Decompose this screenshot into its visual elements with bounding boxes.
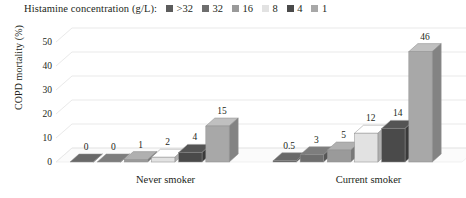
x-axis-category-label: Never smoker bbox=[96, 174, 236, 185]
y-axis-tick-label: 30 bbox=[28, 86, 52, 96]
legend-swatch-icon bbox=[287, 5, 294, 12]
legend-item-label: >32 bbox=[177, 3, 193, 14]
legend-item-label: 16 bbox=[242, 3, 253, 14]
gridline bbox=[56, 76, 466, 90]
legend-swatch-icon bbox=[262, 5, 269, 12]
legend-item[interactable]: >32 bbox=[166, 3, 193, 14]
legend-item[interactable]: 4 bbox=[287, 3, 303, 14]
copd-histamine-bar-chart: Histamine concentration (g/L): >32 32 16… bbox=[0, 0, 466, 198]
y-axis-tick-labels: 01020304050 bbox=[28, 30, 52, 170]
legend-title: Histamine concentration (g/L): bbox=[24, 3, 157, 14]
legend-item-label: 1 bbox=[322, 3, 327, 14]
bar-value-label: 15 bbox=[202, 107, 242, 117]
bar-value-label: 5 bbox=[324, 131, 364, 141]
y-axis-tick-label: 10 bbox=[28, 134, 52, 144]
legend-item[interactable]: 32 bbox=[202, 3, 223, 14]
legend-item[interactable]: 1 bbox=[311, 3, 327, 14]
bar[interactable] bbox=[409, 44, 441, 162]
legend-item-label: 32 bbox=[212, 3, 223, 14]
y-axis-tick-label: 50 bbox=[28, 38, 52, 48]
y-axis-tick-label: 40 bbox=[28, 62, 52, 72]
legend-swatch-icon bbox=[311, 5, 318, 12]
legend-item-label: 8 bbox=[272, 3, 277, 14]
y-axis-title: COPD mortality (%) bbox=[13, 8, 24, 128]
y-axis-tick-label: 20 bbox=[28, 110, 52, 120]
legend-item-label: 4 bbox=[297, 3, 302, 14]
legend-swatch-icon bbox=[166, 5, 173, 12]
legend-item[interactable]: 8 bbox=[262, 3, 278, 14]
y-axis-tick-label: 0 bbox=[28, 158, 52, 168]
bar-value-label: 14 bbox=[378, 109, 418, 119]
legend-swatch-icon bbox=[232, 5, 239, 12]
legend-item[interactable]: 16 bbox=[232, 3, 253, 14]
gridline bbox=[56, 52, 466, 66]
bar-value-label: 4 bbox=[175, 133, 215, 143]
chart-legend: Histamine concentration (g/L): >32 32 16… bbox=[24, 0, 327, 16]
legend-swatch-icon bbox=[202, 5, 209, 12]
x-axis-category-label: Current smoker bbox=[299, 174, 439, 185]
bar-value-label: 46 bbox=[405, 33, 445, 43]
